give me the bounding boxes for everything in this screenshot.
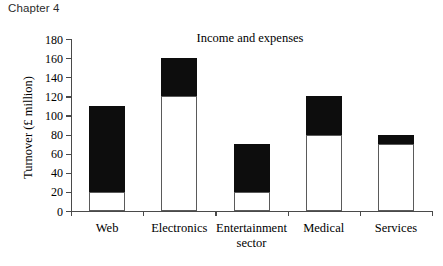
bar-entertainment-sector[interactable] bbox=[234, 144, 270, 211]
plot-area: 020406080100120140160180 bbox=[71, 39, 432, 211]
y-tick-label: 20 bbox=[51, 186, 63, 198]
x-tick bbox=[71, 211, 72, 216]
x-tick bbox=[215, 211, 216, 216]
y-tick-label: 60 bbox=[51, 148, 63, 160]
bar-segment-upper bbox=[161, 58, 197, 96]
x-category-label: Web bbox=[71, 221, 143, 236]
bar-electronics[interactable] bbox=[161, 58, 197, 211]
x-tick bbox=[143, 211, 144, 216]
bar-segment-upper bbox=[378, 135, 414, 145]
x-category-label: Services bbox=[360, 221, 432, 236]
y-tick: 100 bbox=[66, 115, 71, 116]
y-tick: 120 bbox=[66, 96, 71, 97]
x-axis-line bbox=[71, 211, 432, 212]
y-tick-label: 140 bbox=[45, 72, 63, 84]
x-category-label-line: Web bbox=[96, 221, 119, 235]
y-tick-label: 160 bbox=[45, 53, 63, 65]
x-tick bbox=[288, 211, 289, 216]
y-tick-label: 180 bbox=[45, 34, 63, 46]
bar-segment-lower bbox=[378, 144, 414, 211]
y-tick: 20 bbox=[66, 192, 71, 193]
bar-segment-upper bbox=[89, 106, 125, 192]
y-tick-label: 100 bbox=[45, 110, 63, 122]
bar-segment-lower bbox=[89, 192, 125, 211]
x-category-label-line: Electronics bbox=[151, 221, 207, 235]
bar-medical[interactable] bbox=[306, 96, 342, 211]
y-axis-line bbox=[71, 39, 72, 211]
y-tick: 180 bbox=[66, 39, 71, 40]
x-tick bbox=[360, 211, 361, 216]
x-category-label: Medical bbox=[288, 221, 360, 236]
x-category-label: Entertainmentsector bbox=[215, 221, 287, 251]
y-tick: 80 bbox=[66, 135, 71, 136]
bar-services[interactable] bbox=[378, 135, 414, 211]
y-axis-title: Turnover (£ million) bbox=[21, 48, 36, 208]
x-category-label-line: Medical bbox=[303, 221, 344, 235]
bar-segment-upper bbox=[306, 96, 342, 134]
y-tick: 160 bbox=[66, 58, 71, 59]
x-category-label-line: Services bbox=[375, 221, 417, 235]
y-tick: 60 bbox=[66, 154, 71, 155]
y-tick-label: 80 bbox=[51, 129, 63, 141]
y-tick-label: 0 bbox=[57, 206, 63, 218]
bar-web[interactable] bbox=[89, 106, 125, 211]
x-category-label: Electronics bbox=[143, 221, 215, 236]
x-tick bbox=[432, 211, 433, 216]
bar-segment-upper bbox=[234, 144, 270, 192]
x-category-label-line: sector bbox=[215, 236, 287, 251]
y-tick: 140 bbox=[66, 77, 71, 78]
bar-segment-lower bbox=[306, 135, 342, 211]
y-tick-label: 120 bbox=[45, 91, 63, 103]
bar-segment-lower bbox=[234, 192, 270, 211]
bar-chart-figure: Income and expenses Turnover (£ million)… bbox=[0, 0, 443, 266]
bar-segment-lower bbox=[161, 96, 197, 211]
y-tick-label: 40 bbox=[51, 167, 63, 179]
y-tick: 40 bbox=[66, 173, 71, 174]
x-category-label-line: Entertainment bbox=[216, 221, 287, 235]
